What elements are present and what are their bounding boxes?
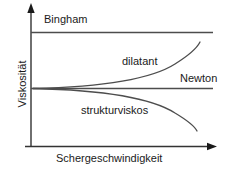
curve-label-newton: Newton <box>180 72 217 84</box>
dilatant-curve <box>33 42 200 89</box>
x-axis-label: Schergeschwindigkeit <box>56 152 162 164</box>
y-axis-arrowhead <box>27 3 34 13</box>
y-axis-label: Viskosität <box>16 48 28 120</box>
curve-label-dilatant: dilatant <box>122 55 157 67</box>
x-axis-arrowhead <box>207 143 217 150</box>
x-axis-group <box>25 143 217 150</box>
curve-label-bingham: Bingham <box>44 13 87 25</box>
viscosity-shear-rate-diagram: Bingham dilatant Newton strukturviskos S… <box>0 0 243 178</box>
curve-label-strukturviskos: strukturviskos <box>81 104 148 116</box>
y-axis-group <box>27 3 34 147</box>
